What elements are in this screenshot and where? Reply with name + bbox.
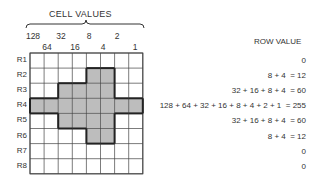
filled-cell: [101, 98, 115, 113]
row-value: 12: [297, 132, 306, 141]
row-label-r7: R7: [13, 146, 27, 155]
row-label-r3: R3: [13, 85, 27, 94]
row-value-title: ROW VALUE: [254, 37, 301, 46]
filled-cell: [72, 83, 86, 98]
filled-cell: [129, 98, 143, 113]
row-value: 0: [302, 147, 306, 156]
row-label-r1: R1: [13, 55, 27, 64]
filled-cell: [86, 129, 100, 144]
col-value-8: 8: [79, 31, 99, 41]
row-value-r8: 0: [299, 162, 306, 171]
row-expression: 32 + 16 + 8 + 4 =: [232, 116, 295, 125]
filled-cell: [44, 98, 58, 113]
filled-cell: [58, 98, 72, 113]
row-expression: 8 + 4 =: [268, 132, 295, 141]
row-label-r2: R2: [13, 70, 27, 79]
col-value-32: 32: [51, 31, 71, 41]
filled-cell: [86, 98, 100, 113]
filled-cell: [30, 98, 44, 113]
col-value-4: 4: [93, 42, 113, 52]
cell-values-brace: [26, 20, 144, 28]
filled-cell: [58, 113, 72, 128]
filled-cell: [101, 83, 115, 98]
filled-cell: [72, 98, 86, 113]
row-value: 0: [302, 56, 306, 65]
row-value: 60: [297, 86, 306, 95]
col-value-2: 2: [107, 31, 127, 41]
row-value-r6: 8 + 4 = 12: [268, 132, 306, 141]
row-expression: 32 + 16 + 8 + 4 =: [232, 86, 295, 95]
filled-cell: [86, 113, 100, 128]
row-value-r3: 32 + 16 + 8 + 4 = 60: [232, 86, 306, 95]
row-label-r4: R4: [13, 100, 27, 109]
col-value-64: 64: [37, 42, 57, 52]
col-value-128: 128: [23, 31, 43, 41]
row-value: 60: [297, 116, 306, 125]
row-label-r5: R5: [13, 115, 27, 124]
row-value-r4: 128 + 64 + 32 + 16 + 8 + 4 + 2 + 1 = 255: [160, 101, 306, 110]
row-value: 0: [302, 162, 306, 171]
row-expression: 8 + 4 =: [268, 71, 295, 80]
bit-grid: [30, 53, 143, 174]
row-value-r5: 32 + 16 + 8 + 4 = 60: [232, 116, 306, 125]
row-value: 12: [297, 71, 306, 80]
filled-cell: [101, 68, 115, 83]
filled-cell: [58, 83, 72, 98]
filled-cell: [115, 98, 129, 113]
filled-cell: [101, 113, 115, 128]
row-label-r8: R8: [13, 161, 27, 170]
col-value-1: 1: [125, 42, 145, 52]
row-value-r2: 8 + 4 = 12: [268, 71, 306, 80]
filled-cell: [86, 68, 100, 83]
filled-cell: [101, 129, 115, 144]
row-value-r1: 0: [299, 56, 306, 65]
row-value-r7: 0: [299, 147, 306, 156]
filled-cell: [86, 83, 100, 98]
filled-cell: [72, 113, 86, 128]
row-value: 255: [293, 101, 306, 110]
col-value-16: 16: [65, 42, 85, 52]
row-expression: 128 + 64 + 32 + 16 + 8 + 4 + 2 + 1 =: [160, 101, 291, 110]
row-label-r6: R6: [13, 131, 27, 140]
